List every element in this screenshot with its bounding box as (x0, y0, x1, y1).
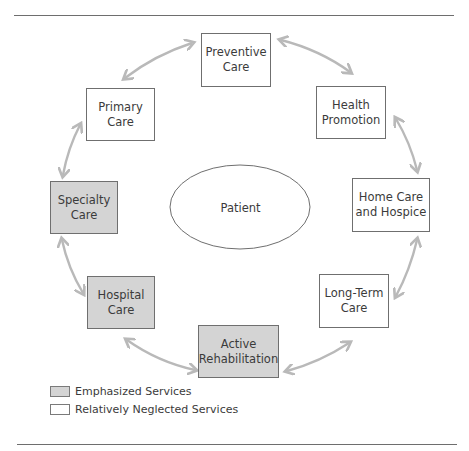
arrow-rehab-hospital (127, 340, 195, 370)
arrow-preventive-health (281, 40, 350, 72)
node-specialty-care: Specialty Care (50, 181, 118, 234)
patient-label: Patient (170, 165, 311, 250)
arrow-specialty-primary (63, 125, 80, 175)
node-active-rehabilitation: Active Rehabilitation (198, 325, 279, 378)
neglected-swatch (50, 404, 70, 415)
node-hospital-care: Hospital Care (87, 276, 155, 329)
arrow-longterm-rehab (287, 343, 349, 371)
node-home-care-hospice: Home Care and Hospice (352, 178, 430, 232)
node-primary-care: Primary Care (86, 88, 155, 141)
bottom-rule (17, 444, 457, 445)
legend-label: Relatively Neglected Services (75, 403, 238, 416)
arrow-hospital-specialty (62, 240, 83, 293)
legend-item-neglected: Relatively Neglected Services (50, 400, 238, 418)
emphasized-swatch (50, 386, 70, 397)
arrow-primary-preventive (125, 43, 192, 78)
arrow-health-home (396, 119, 417, 170)
arrow-home-longterm (396, 240, 417, 296)
legend-label: Emphasized Services (75, 385, 192, 398)
node-preventive-care: Preventive Care (201, 33, 271, 87)
legend: Emphasized Services Relatively Neglected… (50, 382, 238, 418)
node-long-term-care: Long-Term Care (319, 274, 389, 328)
legend-item-emphasized: Emphasized Services (50, 382, 238, 400)
node-health-promotion: Health Promotion (316, 86, 386, 139)
